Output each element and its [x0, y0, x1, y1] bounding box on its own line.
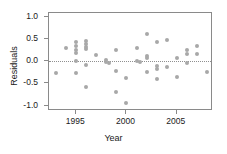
- data-point: [107, 61, 111, 65]
- y-tick-label: 0.5: [26, 34, 38, 43]
- plot-area: [48, 12, 212, 110]
- data-point: [185, 52, 189, 56]
- data-point: [155, 77, 159, 81]
- data-point: [138, 60, 142, 64]
- data-point: [165, 65, 169, 69]
- data-point: [124, 101, 128, 105]
- x-tick-label: 2000: [116, 117, 135, 126]
- data-point: [84, 85, 88, 89]
- data-point: [114, 90, 118, 94]
- y-tick-label: -0.5: [23, 78, 38, 87]
- data-point: [74, 40, 78, 44]
- x-axis: Year 199520002005: [0, 110, 227, 154]
- x-tick-mark: [176, 110, 177, 114]
- x-tick-mark: [75, 110, 76, 114]
- data-point: [74, 71, 78, 75]
- data-point: [205, 70, 209, 74]
- data-point: [74, 59, 78, 63]
- data-point: [94, 53, 98, 57]
- data-point: [165, 38, 169, 42]
- x-axis-title: Year: [0, 133, 227, 143]
- residuals-scatter-chart: Residuals 1.00.50.0-0.5-1.0 Year 1995200…: [0, 0, 227, 154]
- data-points-layer: [49, 13, 211, 109]
- data-point: [175, 56, 179, 60]
- y-tick-label: -1.0: [23, 100, 38, 109]
- data-point: [74, 51, 78, 55]
- data-point: [54, 71, 58, 75]
- y-axis-title: Residuals: [9, 26, 19, 106]
- data-point: [124, 76, 128, 80]
- x-tick-mark: [125, 110, 126, 114]
- y-tick-label: 1.0: [26, 11, 38, 20]
- data-point: [155, 67, 159, 71]
- x-tick-label: 1995: [66, 117, 85, 126]
- data-point: [135, 46, 139, 50]
- data-point: [155, 40, 159, 44]
- x-tick-label: 2005: [166, 117, 185, 126]
- data-point: [145, 32, 149, 36]
- data-point: [175, 75, 179, 79]
- data-point: [185, 61, 189, 65]
- data-point: [84, 63, 88, 67]
- data-point: [145, 56, 149, 60]
- data-point: [64, 46, 68, 50]
- data-point: [195, 52, 199, 56]
- data-point: [84, 47, 88, 51]
- data-point: [195, 44, 199, 48]
- data-point: [114, 48, 118, 52]
- y-tick-label: 0.0: [26, 56, 38, 65]
- data-point: [114, 69, 118, 73]
- data-point: [145, 70, 149, 74]
